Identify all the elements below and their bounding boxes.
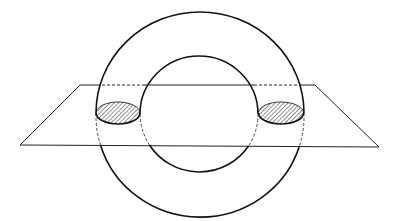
plane-front-edge [20,145,379,147]
cross-section-left [96,102,140,124]
torus-outer-upper-arc [96,12,304,113]
plane [20,85,379,147]
torus-inner-hidden-left [140,114,150,145]
torus-outer-lower-arc [101,145,300,217]
torus-inner-lower-arc [150,145,249,172]
plane-right-edge [315,85,379,147]
diagram-svg [0,0,399,221]
cross-section-right [259,102,304,124]
plane-left-edge [20,85,80,145]
torus-inner-hidden-right [249,114,259,146]
torus-plane-diagram [0,0,399,221]
